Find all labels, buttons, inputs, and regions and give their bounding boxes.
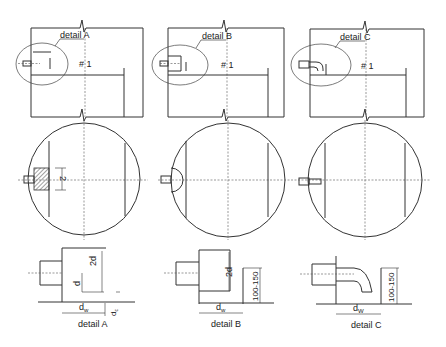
detail-c-title: detail C xyxy=(351,320,382,330)
detail-a-dc-label: dc xyxy=(109,309,119,316)
detail-a-dw-label: dw xyxy=(79,302,89,313)
plan-view-c xyxy=(298,120,430,240)
callout-label-c: detail C xyxy=(340,32,371,42)
plan-view-a: 2 xyxy=(18,120,148,240)
elevation-view-c: detail C # 1 xyxy=(291,21,424,121)
detail-a: 2d d dw dc detail A xyxy=(28,248,135,329)
plan-view-b xyxy=(158,120,298,240)
detail-c-dw-label: dW xyxy=(353,303,364,314)
detail-c-height-label: 100-150 xyxy=(387,272,396,302)
detail-drawing: detail A # 1 detail B # 1 detail C xyxy=(0,0,446,347)
tank-label-c: # 1 xyxy=(361,61,374,71)
detail-b-dw-label: dw xyxy=(216,302,226,313)
elevation-view-b: detail B # 1 xyxy=(152,20,284,121)
callout-label-b: detail B xyxy=(202,31,232,41)
detail-b-2d-label: 2d xyxy=(224,267,234,277)
detail-a-2d-label: 2d xyxy=(88,256,98,266)
detail-b-title: detail B xyxy=(211,319,241,329)
tank-label-a: # 1 xyxy=(79,59,92,69)
detail-b: 2d 100-150 dw detail B xyxy=(164,250,274,329)
detail-a-d-label: d xyxy=(72,281,82,286)
callout-circle-a xyxy=(16,43,68,85)
detail-a-title: detail A xyxy=(78,319,108,329)
callout-label-a: detail A xyxy=(60,30,90,40)
detail-b-height-label: 100-150 xyxy=(251,271,260,301)
tank-label-b: # 1 xyxy=(221,60,234,70)
callout-circle-c xyxy=(291,44,351,86)
plan-annotation-a: 2 xyxy=(58,176,68,181)
elevation-view-a: detail A # 1 xyxy=(16,20,143,121)
detail-c: 100-150 dW detail C xyxy=(300,256,412,330)
